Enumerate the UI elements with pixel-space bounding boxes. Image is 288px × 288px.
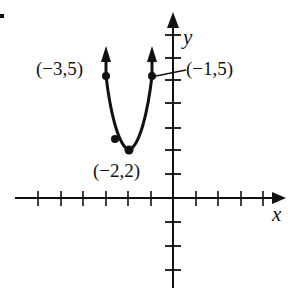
y-axis xyxy=(165,12,181,288)
left-arrow-icon xyxy=(101,46,111,62)
extra-point xyxy=(111,135,119,143)
right-arrow-icon xyxy=(147,46,157,62)
leader-line xyxy=(156,70,186,76)
label-vertex: (−2,2) xyxy=(93,160,140,182)
point-right xyxy=(148,72,156,80)
x-axis xyxy=(15,191,286,206)
stray-mark xyxy=(0,14,4,18)
label-y-axis: y xyxy=(181,25,193,49)
point-left xyxy=(102,72,110,80)
label-point-left: (−3,5) xyxy=(36,58,83,80)
parabola-graph: (−3,5) (−1,5) (−2,2) y x xyxy=(0,0,288,288)
label-x-axis: x xyxy=(271,202,282,226)
label-point-right: (−1,5) xyxy=(186,58,233,80)
y-axis-arrow-icon xyxy=(167,12,179,28)
vertex-point xyxy=(125,146,134,155)
